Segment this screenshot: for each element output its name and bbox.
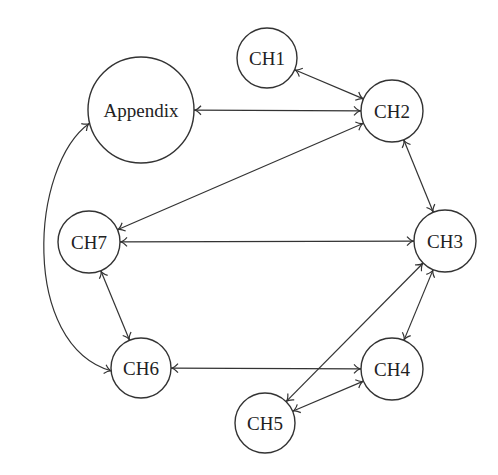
node-appendix: Appendix — [88, 57, 194, 163]
edge-ch6-ch4 — [171, 364, 361, 374]
node-label: CH7 — [71, 232, 107, 253]
node-label: CH3 — [427, 231, 463, 252]
edge-ch3-ch4 — [402, 270, 434, 341]
node-ch1: CH1 — [237, 28, 297, 88]
node-ch7: CH7 — [58, 211, 120, 273]
node-ch3: CH3 — [414, 210, 476, 272]
edge-ch2-ch3 — [402, 140, 435, 213]
edge-ch1-ch2 — [295, 68, 364, 100]
node-ch2: CH2 — [361, 80, 423, 142]
edge-ch7-ch6 — [99, 271, 131, 341]
node-label: CH2 — [374, 101, 410, 122]
node-label: Appendix — [104, 100, 179, 121]
node-label: CH6 — [123, 358, 159, 379]
edge-ch7-ch3 — [120, 237, 414, 247]
node-ch5: CH5 — [235, 393, 295, 453]
node-ch6: CH6 — [111, 338, 171, 398]
node-label: CH5 — [247, 413, 283, 434]
node-label: CH4 — [374, 359, 410, 380]
node-ch4: CH4 — [361, 338, 423, 400]
edge-appendix-ch2 — [194, 106, 361, 116]
chapter-dependency-diagram: AppendixCH1CH2CH3CH4CH5CH6CH7 — [0, 0, 498, 475]
node-label: CH1 — [249, 48, 285, 69]
